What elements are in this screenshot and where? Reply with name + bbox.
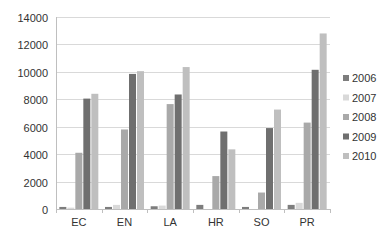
legend-swatch-icon	[343, 153, 349, 159]
x-category-label: HR	[208, 216, 224, 228]
legend-swatch-icon	[343, 75, 349, 81]
bar-so-2006	[242, 207, 249, 209]
legend-item-2009: 2009	[343, 131, 376, 143]
bar-la-2008	[167, 104, 174, 209]
legend-item-2006: 2006	[343, 72, 376, 84]
bar-la-2009	[175, 94, 182, 209]
bar-ec-2007	[67, 208, 74, 209]
legend-label: 2010	[352, 150, 376, 162]
legend-label: 2006	[352, 72, 376, 84]
legend-label: 2008	[352, 111, 376, 123]
grouped-bar-chart: 02000400060008000100001200014000 ECENLAH…	[0, 0, 391, 240]
x-axis: ECENLAHRSOPR	[56, 209, 331, 228]
bar-en-2010	[137, 71, 144, 209]
bar-pr-2006	[288, 205, 295, 209]
x-category-label: PR	[300, 216, 315, 228]
y-tick-label: 2000	[24, 177, 48, 189]
y-tick-label: 12000	[17, 39, 48, 51]
bar-so-2010	[274, 110, 281, 209]
bar-hr-2006	[196, 205, 203, 209]
legend-item-2007: 2007	[343, 92, 376, 104]
bar-ec-2010	[91, 94, 98, 209]
y-tick-label: 4000	[24, 149, 48, 161]
bar-la-2006	[151, 206, 158, 209]
y-tick-label: 10000	[17, 67, 48, 79]
bar-ec-2006	[59, 207, 66, 209]
y-tick-label: 6000	[24, 122, 48, 134]
legend-swatch-icon	[343, 95, 349, 101]
y-axis: 02000400060008000100001200014000	[17, 12, 56, 216]
bar-pr-2010	[320, 33, 327, 209]
y-tick-label: 14000	[17, 12, 48, 24]
legend-label: 2007	[352, 92, 376, 104]
bar-la-2010	[183, 67, 190, 209]
x-category-label: EN	[117, 216, 132, 228]
legend: 20062007200820092010	[343, 72, 376, 162]
bar-pr-2009	[312, 70, 319, 209]
legend-label: 2009	[352, 131, 376, 143]
bar-ec-2008	[75, 153, 82, 209]
x-category-label: EC	[71, 216, 86, 228]
bar-pr-2007	[296, 203, 303, 209]
legend-item-2010: 2010	[343, 150, 376, 162]
bar-pr-2008	[304, 123, 311, 209]
bar-hr-2008	[212, 176, 219, 209]
legend-swatch-icon	[343, 134, 349, 140]
bar-en-2007	[113, 205, 120, 209]
bar-la-2007	[159, 206, 166, 209]
bar-en-2006	[105, 207, 112, 209]
x-category-label: LA	[163, 216, 177, 228]
bar-hr-2010	[228, 149, 235, 209]
bar-hr-2009	[220, 132, 227, 209]
y-tick-label: 8000	[24, 94, 48, 106]
x-category-label: SO	[254, 216, 270, 228]
bar-so-2008	[258, 193, 265, 209]
legend-swatch-icon	[343, 114, 349, 120]
bar-ec-2009	[83, 99, 90, 209]
y-tick-label: 0	[42, 204, 48, 216]
bar-en-2009	[129, 74, 136, 209]
legend-item-2008: 2008	[343, 111, 376, 123]
bar-so-2009	[266, 128, 273, 209]
bar-en-2008	[121, 129, 128, 209]
